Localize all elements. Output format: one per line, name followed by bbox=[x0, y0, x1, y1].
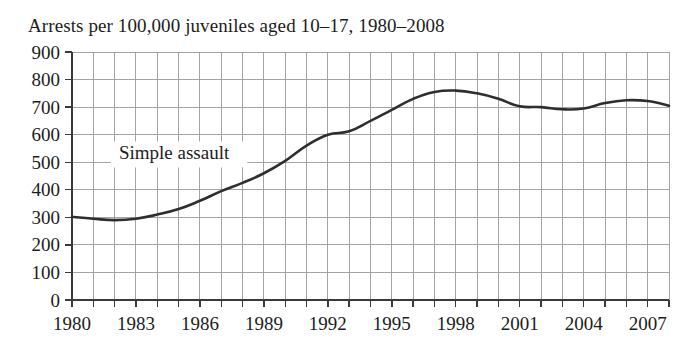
y-axis-tick-label: 100 bbox=[32, 262, 61, 283]
plot-area: 0100200300400500600700800900 19801983198… bbox=[0, 44, 682, 354]
x-axis-tick-label: 1992 bbox=[309, 313, 347, 334]
x-axis-tick-label: 2001 bbox=[501, 313, 539, 334]
y-axis-tick-label: 400 bbox=[32, 179, 61, 200]
x-axis-tick-label: 2004 bbox=[565, 313, 604, 334]
y-axis-tick-label: 700 bbox=[32, 97, 61, 118]
y-axis-tick-label: 300 bbox=[32, 207, 61, 228]
series-label-text: Simple assault bbox=[119, 142, 230, 163]
y-axis-tick-label: 800 bbox=[32, 69, 61, 90]
x-axis-tick-labels: 1980198319861989199219951998200120042007 bbox=[53, 313, 667, 334]
x-axis-tick-label: 1998 bbox=[437, 313, 475, 334]
line-chart-svg: 0100200300400500600700800900 19801983198… bbox=[0, 44, 682, 354]
y-axis-tick-label: 200 bbox=[32, 234, 61, 255]
x-axis-tick-label: 1986 bbox=[181, 313, 219, 334]
x-axis-tick-label: 1989 bbox=[245, 313, 283, 334]
vertical-gridlines bbox=[93, 52, 669, 300]
y-axis-tick-labels: 0100200300400500600700800900 bbox=[32, 44, 61, 311]
series-label-simple-assault: Simple assault bbox=[111, 141, 247, 167]
x-axis bbox=[72, 300, 669, 307]
chart-title: Arrests per 100,000 juveniles aged 10–17… bbox=[28, 14, 445, 38]
x-axis-tick-label: 1983 bbox=[117, 313, 155, 334]
x-axis-tick-label: 1995 bbox=[373, 313, 411, 334]
y-axis-tick-label: 500 bbox=[32, 152, 61, 173]
y-axis-tick-label: 900 bbox=[32, 44, 61, 63]
y-axis-tick-label: 600 bbox=[32, 124, 61, 145]
chart-figure: Arrests per 100,000 juveniles aged 10–17… bbox=[0, 0, 682, 354]
y-axis-tick-label: 0 bbox=[51, 290, 61, 311]
x-axis-tick-label: 1980 bbox=[53, 313, 91, 334]
x-axis-tick-label: 2007 bbox=[629, 313, 667, 334]
y-axis bbox=[65, 52, 72, 300]
